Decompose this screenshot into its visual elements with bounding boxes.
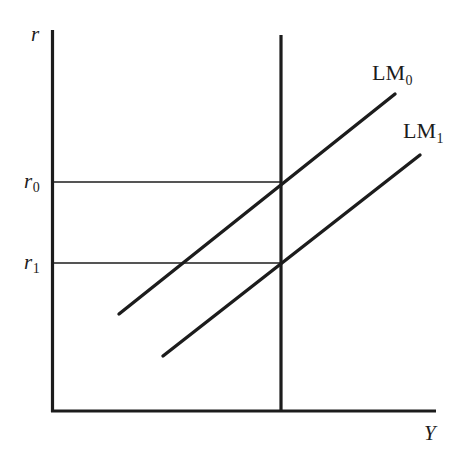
lm0-base: LM (372, 60, 405, 85)
lm1-base: LM (403, 118, 436, 143)
r0-base: r (24, 169, 32, 193)
r1-tick-label: r1 (24, 252, 39, 273)
lm1-curve (163, 155, 420, 356)
lm0-subscript: 0 (406, 73, 413, 88)
r1-base: r (24, 250, 32, 274)
lm0-curve-label: LM0 (372, 62, 412, 84)
y-axis-label: r (31, 24, 39, 45)
r0-tick-label: r0 (24, 171, 39, 192)
lm-curve-figure: r Y r0 r1 LM0 LM1 (0, 0, 468, 459)
x-axis-label: Y (424, 423, 436, 444)
r1-subscript: 1 (33, 261, 40, 276)
lm1-curve-label: LM1 (403, 120, 443, 142)
r0-subscript: 0 (33, 180, 40, 195)
lm1-subscript: 1 (437, 131, 444, 146)
